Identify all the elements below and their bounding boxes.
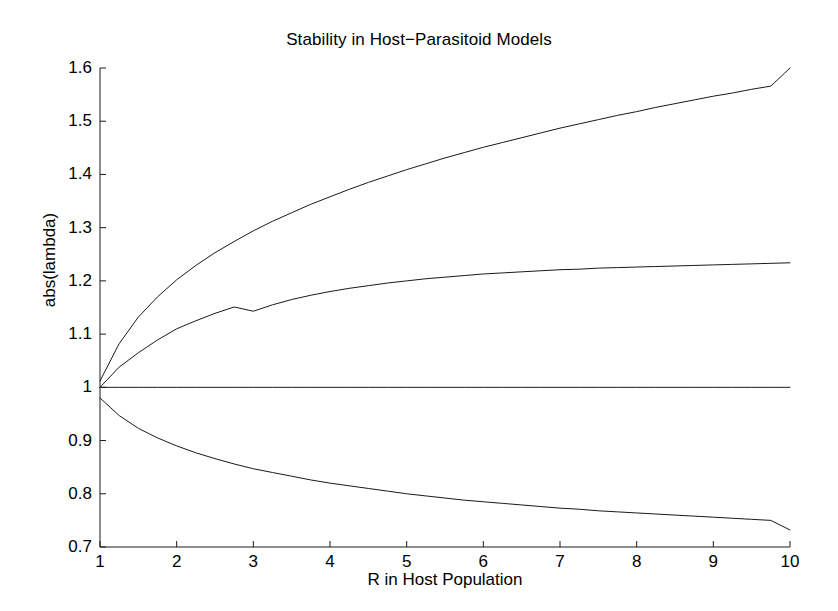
figure-canvas: Stability in Host−Parasitoid Models abs(… — [0, 0, 838, 611]
series-line-branch-2-upper — [100, 263, 790, 388]
plot-area — [0, 0, 838, 611]
axis-spine — [100, 68, 790, 547]
series-line-branch-1-upper — [100, 68, 790, 381]
series-line-branch-4-lower — [100, 398, 790, 530]
